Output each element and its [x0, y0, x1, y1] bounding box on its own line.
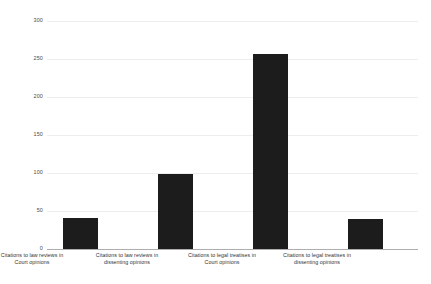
x-tick-label-line1: Citations to legal treatises in — [188, 252, 256, 258]
bar-citations-legal-treatises-dissenting — [348, 219, 383, 249]
x-axis-tick-labels: Citations to law reviews in Court opinio… — [0, 252, 431, 282]
x-axis-line — [47, 249, 418, 250]
gridline — [47, 211, 418, 212]
bar-citations-law-reviews-dissenting — [158, 174, 193, 249]
x-tick-label: Citations to law reviews in dissenting o… — [75, 252, 179, 266]
bar-citations-legal-treatises-court — [253, 54, 288, 249]
x-tick-label-line2: dissenting opinions — [265, 259, 369, 266]
y-tick-label: 250 — [3, 56, 43, 61]
x-tick-label-line1: Citations to legal treatises in — [283, 252, 351, 258]
x-tick-label-line1: Citations to law reviews in — [96, 252, 158, 258]
bar-chart: 300 250 200 150 100 50 0 Citations to la… — [0, 0, 431, 284]
gridline — [47, 21, 418, 22]
y-axis-tick-labels: 300 250 200 150 100 50 0 — [0, 0, 43, 284]
y-tick-label: 50 — [3, 208, 43, 213]
plot-area — [47, 21, 418, 249]
y-tick-label: 150 — [3, 132, 43, 137]
gridline — [47, 135, 418, 136]
x-tick-label-line2: Court opinions — [0, 259, 84, 266]
x-tick-label-line2: dissenting opinions — [75, 259, 179, 266]
gridline — [47, 173, 418, 174]
gridline — [47, 97, 418, 98]
x-tick-label-line1: Citations to law reviews in — [1, 252, 63, 258]
x-tick-label: Citations to legal treatises in Court op… — [170, 252, 274, 266]
gridline — [47, 59, 418, 60]
x-tick-label: Citations to legal treatises in dissenti… — [265, 252, 369, 266]
bar-citations-law-reviews-court — [63, 218, 98, 249]
y-tick-label: 100 — [3, 170, 43, 175]
y-tick-label: 200 — [3, 94, 43, 99]
x-tick-label: Citations to law reviews in Court opinio… — [0, 252, 84, 266]
y-tick-label: 300 — [3, 18, 43, 23]
x-tick-label-line2: Court opinions — [170, 259, 274, 266]
y-tick-label: 0 — [3, 246, 43, 251]
